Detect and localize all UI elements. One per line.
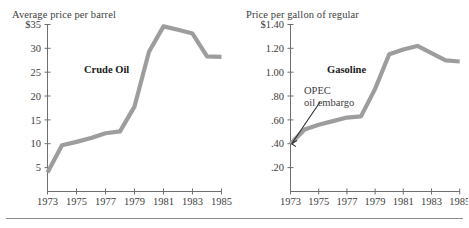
x-tick-label: 1981 — [153, 196, 174, 207]
x-tick-label: 1975 — [66, 196, 87, 207]
y-tick-label: 1.00 — [266, 67, 284, 78]
x-tick-label: 1977 — [95, 196, 116, 207]
y-tick-label: .80 — [271, 91, 284, 102]
x-tick-label: 1985 — [449, 196, 468, 207]
x-tick-label: 1975 — [308, 196, 329, 207]
x-tick-label: 1977 — [336, 196, 357, 207]
x-tick-label: 1973 — [37, 196, 58, 207]
chart-panel-gasoline: Price per gallon of regular $1.40 1.20 1… — [234, 0, 468, 212]
x-tick-labels: 1973 1975 1977 1979 1981 1983 1985 — [280, 196, 468, 207]
y-tick-label: 5 — [36, 162, 41, 173]
series-label-crude-oil: Crude Oil — [84, 64, 129, 75]
bottom-divider-rule — [6, 218, 463, 219]
dual-line-chart-figure: Average price per barrel $35 30 25 20 15 — [0, 0, 469, 228]
x-tick-label: 1985 — [211, 196, 232, 207]
y-tick-label: $1.40 — [260, 19, 284, 30]
opec-leader-line — [293, 102, 321, 143]
x-tick-label: 1983 — [182, 196, 203, 207]
y-tick-label: .20 — [271, 162, 284, 173]
x-tick-label: 1979 — [124, 196, 145, 207]
y-tick-label: 1.20 — [266, 43, 284, 54]
crude-oil-plot: $35 30 25 20 15 10 5 1973 197 — [0, 0, 234, 212]
y-tick-label: 30 — [31, 43, 42, 54]
x-tick-label: 1973 — [280, 196, 301, 207]
y-tick-label: 25 — [31, 67, 42, 78]
gasoline-plot: $1.40 1.20 1.00 .80 .60 .40 .20 1973 — [234, 0, 468, 212]
y-tick-labels: $35 30 25 20 15 10 5 — [25, 19, 41, 173]
y-tick-label: 15 — [31, 115, 42, 126]
y-tick-label: $35 — [25, 19, 41, 30]
x-tick-label: 1979 — [365, 196, 386, 207]
series-label-gasoline: Gasoline — [327, 64, 366, 75]
y-tick-label: .40 — [271, 138, 284, 149]
opec-annotation-line2: oil embargo — [304, 97, 354, 108]
y-tick-label: 10 — [31, 138, 42, 149]
chart-panel-crude-oil: Average price per barrel $35 30 25 20 15 — [0, 0, 234, 212]
x-tick-label: 1981 — [393, 196, 414, 207]
y-tick-label: .60 — [271, 115, 284, 126]
y-tick-label: 20 — [31, 91, 42, 102]
x-tick-labels: 1973 1975 1977 1979 1981 1983 1985 — [37, 196, 232, 207]
x-tick-label: 1983 — [421, 196, 442, 207]
opec-annotation-line1: OPEC — [304, 85, 331, 96]
y-tick-labels: $1.40 1.20 1.00 .80 .60 .40 .20 — [260, 19, 284, 173]
crude-oil-line — [48, 26, 222, 172]
